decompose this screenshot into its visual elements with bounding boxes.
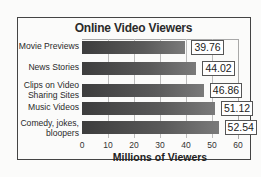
x-axis-label: Millions of Viewers — [82, 151, 238, 163]
category-label: Music Videos — [28, 103, 79, 113]
x-tick-label: 20 — [126, 140, 142, 150]
x-tick-label: 30 — [152, 140, 168, 150]
x-tick-label: 50 — [204, 140, 220, 150]
category-label: News Stories — [28, 63, 79, 73]
x-tick-label: 60 — [230, 140, 246, 150]
value-label: 51.12 — [221, 101, 253, 116]
bar — [82, 121, 219, 134]
x-tick-label: 0 — [74, 140, 90, 150]
bar — [82, 102, 215, 115]
category-label: Clips on VideoSharing Sites — [24, 81, 79, 100]
category-label: Comedy, jokes,bloopers — [20, 119, 79, 138]
value-label: 39.76 — [191, 40, 223, 55]
value-label: 44.02 — [202, 61, 234, 76]
value-label: 52.54 — [225, 120, 257, 135]
x-tick-label: 40 — [178, 140, 194, 150]
bar — [82, 62, 196, 75]
value-label: 46.86 — [210, 83, 242, 98]
bar — [82, 41, 185, 54]
category-label: Movie Previews — [19, 42, 79, 52]
chart-title: Online Video Viewers — [17, 21, 250, 35]
x-tick-label: 10 — [100, 140, 116, 150]
bar — [82, 84, 204, 97]
